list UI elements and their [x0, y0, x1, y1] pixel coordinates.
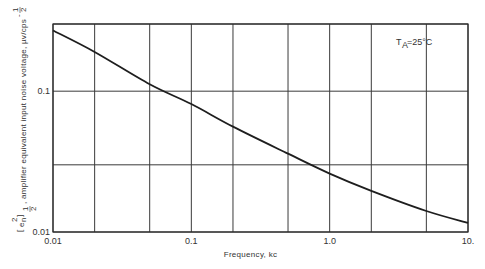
x-tick-label: 0.01	[44, 236, 62, 246]
temperature-annotation: T A =25°C	[396, 37, 433, 50]
y-gridlines	[53, 24, 468, 232]
y-tick-label: 0.01	[32, 227, 50, 237]
series-line-noise-voltage	[53, 30, 468, 222]
noise-voltage-chart: 0.010.11.010. 0.010.1 Frequency, kc [ e …	[0, 0, 485, 269]
y-label-unit-exp-sign: -	[14, 14, 23, 17]
y-label-text: , amplifier equivalent input noise volta…	[19, 19, 28, 204]
x-tick-label: 1.0	[323, 236, 336, 246]
annotation-value: =25°C	[407, 37, 433, 47]
y-axis-label: [ e n 2 ] 1 2 , amplifier equivalent inp…	[10, 7, 38, 232]
x-tick-labels: 0.010.11.010.	[44, 236, 474, 246]
plot-frame	[53, 24, 468, 232]
x-tick-label: 0.1	[185, 236, 198, 246]
y-label-unit-exp-den: 2	[19, 7, 28, 12]
y-label-bracket-open: [	[15, 229, 24, 232]
y-tick-label: 0.1	[37, 86, 50, 96]
x-axis-label: Frequency, kc	[224, 250, 278, 259]
x-gridlines	[53, 24, 468, 232]
y-tick-labels: 0.010.1	[32, 86, 50, 237]
y-label-bracket-close: ]	[15, 214, 24, 217]
x-tick-label: 10.	[462, 236, 475, 246]
y-label-unit-exponent: - 1 2	[11, 7, 28, 17]
y-label-exponent-den: 2	[29, 206, 38, 211]
